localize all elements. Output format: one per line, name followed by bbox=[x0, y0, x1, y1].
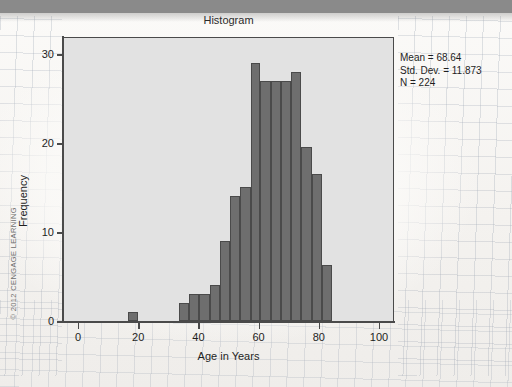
histogram-bar bbox=[260, 81, 270, 321]
y-tick-mark bbox=[57, 232, 62, 233]
scanned-page: © 2012 CENGAGE LEARNING Histogram 010203… bbox=[0, 0, 512, 387]
histogram-bar bbox=[179, 303, 189, 321]
y-tick-mark bbox=[57, 54, 62, 55]
x-tick-mark bbox=[319, 323, 320, 329]
x-tick-mark bbox=[138, 323, 139, 329]
y-tick-label: 30 bbox=[14, 48, 54, 60]
histogram-bar bbox=[240, 187, 250, 321]
y-tick-label: 0 bbox=[14, 315, 54, 327]
histogram-bar bbox=[189, 294, 199, 321]
histogram-bar bbox=[128, 312, 138, 321]
x-tick-mark bbox=[78, 323, 79, 329]
histogram-bar bbox=[312, 174, 322, 321]
x-tick-mark bbox=[198, 323, 199, 329]
histogram-bar bbox=[301, 147, 311, 321]
y-axis-line bbox=[62, 36, 64, 323]
histogram-bars bbox=[64, 38, 393, 321]
y-tick-mark bbox=[57, 143, 62, 144]
histogram-plot-area bbox=[63, 37, 394, 322]
statistics-annotation: Mean = 68.64 Std. Dev. = 11.873 N = 224 bbox=[400, 52, 482, 90]
histogram-bar bbox=[281, 81, 291, 321]
histogram-bar bbox=[291, 72, 301, 321]
histogram-bar bbox=[322, 265, 332, 321]
x-tick-label: 80 bbox=[299, 331, 339, 343]
x-tick-mark bbox=[379, 323, 380, 329]
histogram-bar bbox=[220, 241, 230, 321]
x-tick-label: 40 bbox=[178, 331, 218, 343]
x-tick-label: 0 bbox=[58, 331, 98, 343]
y-tick-label: 20 bbox=[14, 137, 54, 149]
y-tick-mark bbox=[57, 321, 62, 322]
mean-label: Mean = 68.64 bbox=[400, 52, 482, 65]
page-header-bar bbox=[0, 0, 512, 13]
y-axis-title: Frequency bbox=[17, 156, 29, 246]
x-tick-label: 100 bbox=[359, 331, 399, 343]
x-axis-title: Age in Years bbox=[63, 350, 394, 362]
x-tick-mark bbox=[259, 323, 260, 329]
y-axis-ticks: 0102030 bbox=[8, 0, 54, 387]
x-tick-label: 60 bbox=[239, 331, 279, 343]
histogram-bar bbox=[210, 285, 220, 321]
x-axis-line bbox=[62, 321, 395, 323]
histogram-bar bbox=[271, 81, 281, 321]
histogram-bar bbox=[230, 196, 240, 321]
histogram-bar bbox=[199, 294, 209, 321]
histogram-bar bbox=[251, 63, 261, 321]
sample-size-label: N = 224 bbox=[400, 77, 482, 90]
x-tick-label: 20 bbox=[118, 331, 158, 343]
chart-title: Histogram bbox=[63, 14, 394, 26]
std-dev-label: Std. Dev. = 11.873 bbox=[400, 65, 482, 78]
